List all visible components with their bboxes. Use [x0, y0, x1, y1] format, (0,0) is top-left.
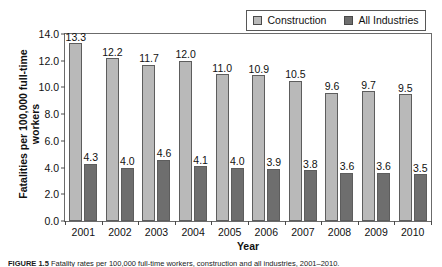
bar-value-label: 4.1	[193, 155, 208, 166]
bar-all-industries[interactable]: 3.6	[377, 173, 390, 221]
figure-root: ConstructionAll Industries Fatalities pe…	[0, 0, 442, 267]
bar-all-industries[interactable]: 3.9	[267, 169, 280, 221]
bar-value-label: 13.3	[66, 32, 86, 43]
bar-all-industries[interactable]: 3.6	[340, 173, 353, 221]
bar-value-label: 9.7	[361, 80, 376, 91]
bar-construction[interactable]: 9.5	[399, 94, 412, 221]
x-axis-tick-mark	[65, 221, 66, 225]
bar-group: 9.73.6	[358, 34, 395, 221]
figure-caption-text: Fatality rates per 100,000 full-time wor…	[51, 259, 340, 267]
x-axis-tick-mark	[248, 221, 249, 225]
bar-value-label: 4.6	[157, 148, 172, 159]
bar-value-label: 12.2	[102, 47, 122, 58]
bar-value-label: 3.6	[340, 161, 355, 172]
x-axis-tick-mark	[431, 221, 432, 225]
x-axis-tick-mark	[102, 221, 103, 225]
bar-group: 11.04.0	[211, 34, 248, 221]
legend-label: All Industries	[358, 15, 418, 26]
x-axis-tick-label: 2003	[145, 226, 168, 238]
bar-value-label: 11.0	[212, 63, 232, 74]
bar-value-label: 10.5	[285, 69, 305, 80]
x-axis-tick-mark	[211, 221, 212, 225]
x-axis-tick-label: 2005	[218, 226, 241, 238]
bar-construction[interactable]: 9.7	[362, 91, 375, 221]
bar-construction[interactable]: 11.0	[216, 74, 229, 221]
x-axis-tick-mark	[285, 221, 286, 225]
bar-value-label: 11.7	[139, 53, 159, 64]
bar-group: 9.53.5	[394, 34, 431, 221]
construction-swatch	[253, 16, 262, 25]
bar-construction[interactable]: 13.3	[69, 43, 82, 221]
bar-value-label: 4.0	[230, 156, 245, 167]
plot-area: 0.02.04.06.08.010.012.014.013.34.3200112…	[64, 33, 432, 222]
y-axis-label: Fatalities per 100,000 full-time workers	[17, 19, 41, 229]
bar-value-label: 3.6	[376, 161, 391, 172]
x-axis-tick-mark	[138, 221, 139, 225]
bar-group: 10.93.9	[248, 34, 285, 221]
bar-all-industries[interactable]: 4.0	[231, 168, 244, 221]
figure-caption-label: FIGURE 1.5	[8, 259, 49, 267]
x-axis-tick-label: 2002	[108, 226, 131, 238]
bar-value-label: 9.6	[325, 81, 340, 92]
bar-group: 11.74.6	[138, 34, 175, 221]
bar-all-industries[interactable]: 3.8	[304, 170, 317, 221]
bar-construction[interactable]: 11.7	[142, 65, 155, 221]
bar-value-label: 3.5	[413, 163, 428, 174]
legend-entry: All Industries	[344, 15, 418, 26]
x-axis-tick-mark	[358, 221, 359, 225]
x-axis-label: Year	[64, 240, 432, 252]
bar-value-label: 4.0	[120, 156, 135, 167]
x-axis-tick-label: 2006	[255, 226, 278, 238]
bar-value-label: 4.3	[83, 152, 98, 163]
x-axis-tick-label: 2009	[364, 226, 387, 238]
bar-construction[interactable]: 10.5	[289, 81, 302, 221]
bar-construction[interactable]: 10.9	[252, 75, 265, 221]
bar-group: 10.53.8	[285, 34, 322, 221]
x-axis-tick-label: 2010	[401, 226, 424, 238]
plot-inner: 0.02.04.06.08.010.012.014.013.34.3200112…	[65, 34, 431, 221]
legend-label: Construction	[267, 15, 326, 26]
bar-construction[interactable]: 12.0	[179, 61, 192, 221]
bar-value-label: 9.5	[398, 83, 413, 94]
x-axis-tick-mark	[394, 221, 395, 225]
bar-value-label: 3.8	[303, 159, 318, 170]
figure-caption: FIGURE 1.5 Fatality rates per 100,000 fu…	[8, 259, 438, 267]
bar-all-industries[interactable]: 4.0	[121, 168, 134, 221]
x-axis-tick-label: 2004	[181, 226, 204, 238]
x-axis-tick-mark	[321, 221, 322, 225]
y-axis-label-line1: Fatalities per 100,000 full-time	[17, 49, 29, 198]
chart-legend: ConstructionAll Industries	[246, 10, 426, 31]
all-industries-swatch	[344, 16, 353, 25]
legend-entry: Construction	[253, 15, 326, 26]
bar-group: 9.63.6	[321, 34, 358, 221]
bar-all-industries[interactable]: 4.3	[84, 164, 97, 221]
x-axis-tick-label: 2008	[328, 226, 351, 238]
bar-construction[interactable]: 9.6	[325, 93, 338, 221]
bar-group: 12.04.1	[175, 34, 212, 221]
bar-group: 12.24.0	[102, 34, 139, 221]
bar-value-label: 12.0	[175, 49, 195, 60]
bar-all-industries[interactable]: 4.6	[157, 160, 170, 221]
x-axis-tick-label: 2007	[291, 226, 314, 238]
x-axis-tick-label: 2001	[72, 226, 95, 238]
x-axis-tick-mark	[175, 221, 176, 225]
bar-group: 13.34.3	[65, 34, 102, 221]
bar-construction[interactable]: 12.2	[106, 58, 119, 221]
bar-all-industries[interactable]: 4.1	[194, 166, 207, 221]
bar-value-label: 10.9	[249, 64, 269, 75]
bar-value-label: 3.9	[266, 157, 281, 168]
y-axis-label-line2: workers	[29, 104, 41, 144]
bar-all-industries[interactable]: 3.5	[414, 174, 427, 221]
